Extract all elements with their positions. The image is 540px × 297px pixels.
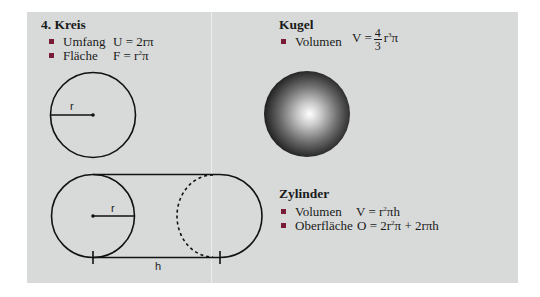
cylinder-figure: r h [52, 175, 263, 273]
cylinder-height-label: h [155, 260, 161, 272]
geometry-figures: r r h [0, 0, 540, 297]
circle-figure: r [51, 73, 136, 158]
sphere-figure [264, 71, 350, 157]
circle-radius-label: r [70, 100, 74, 112]
cylinder-radius-label: r [111, 202, 115, 214]
